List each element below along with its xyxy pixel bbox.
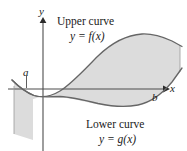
area-between-curves-figure: y x a b Upper curve y = f(x) Lower curve… — [0, 0, 187, 151]
y-axis-arrowhead — [40, 17, 47, 23]
upper-curve-equation: y = f(x) — [70, 31, 105, 43]
x-axis-label: x — [170, 83, 175, 94]
upper-curve-caption: Upper curve — [57, 16, 114, 28]
lower-curve-caption: Lower curve — [86, 119, 144, 131]
upper-bound-label-b: b — [152, 92, 158, 103]
y-axis-label: y — [39, 6, 44, 17]
lower-bound-label-a: a — [23, 67, 29, 78]
lower-curve-equation: y = g(x) — [99, 134, 136, 146]
